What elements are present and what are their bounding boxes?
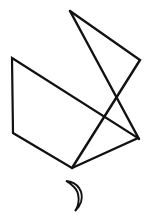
quadrilateral-shape bbox=[12, 58, 138, 168]
apex-spike-shape bbox=[70, 11, 139, 139]
crescent-shape bbox=[66, 181, 82, 211]
drawing-canvas bbox=[0, 0, 151, 222]
zigzag-triangle-shape bbox=[70, 11, 140, 168]
line-drawing bbox=[0, 0, 151, 222]
